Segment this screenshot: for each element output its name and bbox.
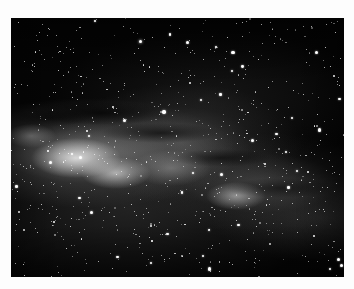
star <box>107 196 108 197</box>
star <box>130 135 131 136</box>
star <box>191 156 192 157</box>
bright-star <box>88 135 90 137</box>
star <box>16 174 17 175</box>
star <box>92 118 93 119</box>
star <box>189 253 190 254</box>
bright-star <box>116 256 118 258</box>
star <box>63 75 64 76</box>
star <box>182 152 183 153</box>
star <box>276 152 277 153</box>
star <box>269 35 270 36</box>
star <box>107 163 109 165</box>
star <box>256 226 257 227</box>
star <box>82 166 83 167</box>
star <box>201 268 202 269</box>
star <box>113 216 114 217</box>
star <box>261 186 262 187</box>
star <box>173 143 174 144</box>
star <box>40 118 41 119</box>
star <box>243 78 244 79</box>
star <box>71 245 72 246</box>
star <box>96 19 97 20</box>
star <box>236 194 238 196</box>
star <box>24 275 25 276</box>
star <box>102 227 103 228</box>
star <box>105 152 106 153</box>
star <box>240 160 241 161</box>
star <box>178 80 179 81</box>
star <box>231 207 232 208</box>
star <box>268 123 269 124</box>
star <box>144 71 145 72</box>
star <box>302 119 303 120</box>
star <box>55 92 56 93</box>
star <box>282 153 283 154</box>
star <box>226 178 227 179</box>
star <box>32 64 34 66</box>
star <box>205 187 206 188</box>
star <box>203 81 204 82</box>
star <box>284 117 285 118</box>
star <box>324 121 325 122</box>
star <box>84 126 85 127</box>
star <box>130 96 131 97</box>
star <box>208 134 210 136</box>
star <box>330 224 331 225</box>
star <box>189 82 191 84</box>
star <box>54 183 56 185</box>
star <box>298 93 299 94</box>
star <box>63 162 64 163</box>
star <box>305 155 307 157</box>
star <box>326 24 328 26</box>
star <box>18 211 20 213</box>
star <box>156 84 157 85</box>
star <box>326 170 327 171</box>
vignette <box>11 18 344 277</box>
star <box>61 236 62 237</box>
bright-star <box>90 211 93 214</box>
star <box>76 66 77 67</box>
star <box>23 264 24 265</box>
star <box>119 125 120 126</box>
star <box>135 234 136 235</box>
bright-star <box>192 172 194 174</box>
star <box>89 52 90 53</box>
star <box>303 26 304 27</box>
star <box>160 111 162 113</box>
star <box>172 115 174 117</box>
star <box>205 20 206 21</box>
star <box>314 154 315 155</box>
star <box>177 178 178 179</box>
star <box>61 186 62 187</box>
star <box>185 248 186 249</box>
bright-star <box>220 173 223 176</box>
star <box>339 85 340 86</box>
star <box>186 189 187 190</box>
star <box>196 258 197 259</box>
star <box>218 188 219 189</box>
star <box>170 204 171 205</box>
star <box>330 66 331 67</box>
star <box>52 145 53 146</box>
star <box>219 261 221 263</box>
star <box>161 255 162 256</box>
star <box>308 213 309 214</box>
star <box>266 223 267 224</box>
star <box>114 154 115 155</box>
star <box>146 265 147 266</box>
star <box>247 239 248 240</box>
star <box>38 130 39 131</box>
star <box>13 182 14 183</box>
star <box>129 174 130 175</box>
star <box>42 209 43 210</box>
star <box>325 47 326 48</box>
star <box>178 155 179 156</box>
star <box>180 190 181 191</box>
star <box>227 37 228 38</box>
star <box>168 105 169 106</box>
star <box>210 49 211 50</box>
star <box>229 262 230 263</box>
star <box>76 105 77 106</box>
star <box>158 170 159 171</box>
star <box>228 97 230 99</box>
